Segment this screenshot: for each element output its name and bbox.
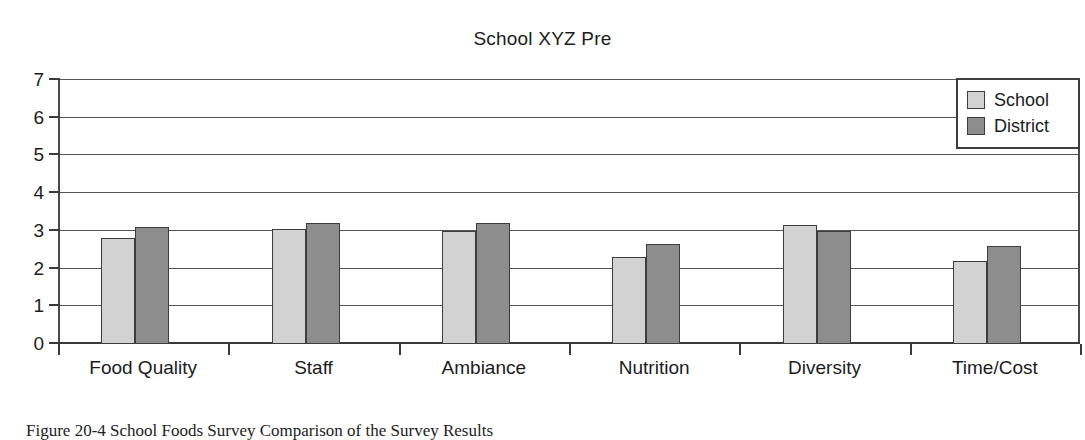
legend-swatch-district xyxy=(967,117,985,135)
bar-district xyxy=(135,227,169,344)
x-axis-category-label: Staff xyxy=(229,356,399,380)
bar-school xyxy=(442,231,476,344)
bar-district xyxy=(987,246,1021,344)
x-axis-category-label: Nutrition xyxy=(569,356,739,380)
bar-district xyxy=(476,223,510,344)
x-axis-separator xyxy=(910,344,912,355)
bar-district xyxy=(646,244,680,344)
x-axis-category-label: Food Quality xyxy=(58,356,228,380)
y-axis-tick-label: 5 xyxy=(10,144,44,166)
y-axis-tick-label: 6 xyxy=(10,107,44,129)
x-axis-separator xyxy=(58,344,60,355)
chart-title: School XYZ Pre xyxy=(0,28,1085,50)
y-axis-tick-label: 3 xyxy=(10,220,44,242)
legend-item-district: District xyxy=(967,113,1070,139)
bar-school xyxy=(783,225,817,344)
x-axis-separator xyxy=(1080,344,1082,355)
bar-school xyxy=(101,238,135,344)
y-axis-tick-label: 1 xyxy=(10,295,44,317)
bar-group xyxy=(612,80,680,344)
bar-group xyxy=(101,80,169,344)
y-axis-tick-label: 2 xyxy=(10,258,44,280)
bar-group xyxy=(272,80,340,344)
bar-school xyxy=(272,229,306,344)
x-axis-separator xyxy=(569,344,571,355)
bars-layer xyxy=(58,80,1080,344)
bar-group xyxy=(442,80,510,344)
legend-label-school: School xyxy=(994,90,1049,111)
bar-school xyxy=(612,257,646,344)
bar-school xyxy=(953,261,987,344)
chart-legend: School District xyxy=(956,78,1080,149)
legend-item-school: School xyxy=(967,87,1070,113)
x-axis-separator xyxy=(228,344,230,355)
x-axis-separator xyxy=(399,344,401,355)
figure-container: School XYZ Pre 01234567 Food QualityStaf… xyxy=(0,0,1085,440)
y-axis-tick-label: 0 xyxy=(10,333,44,355)
x-axis-category-label: Time/Cost xyxy=(910,356,1080,380)
x-axis-separator xyxy=(739,344,741,355)
x-axis-category-label: Diversity xyxy=(740,356,910,380)
legend-swatch-school xyxy=(967,91,985,109)
y-axis-tick-label: 4 xyxy=(10,182,44,204)
x-axis-category-label: Ambiance xyxy=(399,356,569,380)
bar-district xyxy=(817,231,851,344)
figure-caption: Figure 20-4 School Foods Survey Comparis… xyxy=(26,421,1066,440)
bar-district xyxy=(306,223,340,344)
legend-label-district: District xyxy=(994,116,1049,137)
bar-group xyxy=(783,80,851,344)
plot-area: 01234567 xyxy=(58,80,1080,344)
y-axis-tick-label: 7 xyxy=(10,69,44,91)
